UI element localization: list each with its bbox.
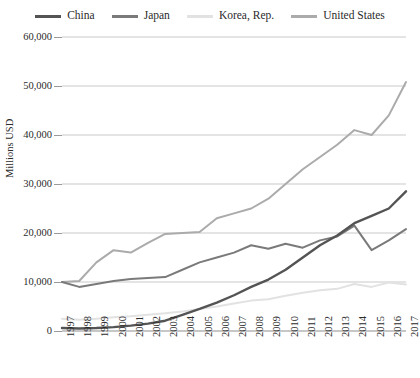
legend-label-china: China	[67, 10, 94, 22]
legend-item-china: China	[35, 10, 94, 22]
x-tick-label: 2017	[410, 316, 420, 337]
x-tick-label: 2010	[290, 316, 301, 337]
x-tick-label: 2009	[272, 316, 283, 337]
line-chart: China Japan Korea, Rep. United States Mi…	[0, 0, 420, 378]
x-tick-label: 2013	[341, 316, 352, 337]
legend-item-united-states: United States	[291, 10, 385, 22]
legend-item-japan: Japan	[112, 10, 170, 22]
x-tick-label: 2007	[238, 316, 249, 337]
x-tick-label: 2001	[135, 316, 146, 337]
legend-label-japan: Japan	[144, 10, 170, 22]
x-tick-label: 2015	[376, 316, 387, 337]
legend-swatch-japan	[112, 15, 138, 18]
x-tick-label: 2008	[255, 316, 266, 337]
x-tick-label: 2000	[118, 316, 129, 337]
x-tick-label: 2002	[152, 316, 163, 337]
legend-item-korea-rep: Korea, Rep.	[187, 10, 274, 22]
x-tick-label: 2011	[307, 316, 318, 337]
legend-swatch-korea-rep	[187, 15, 213, 18]
x-tick-label: 2016	[393, 316, 404, 337]
x-tick-label: 2004	[186, 316, 197, 337]
legend-label-korea-rep: Korea, Rep.	[219, 10, 274, 22]
plot-area: Millions USD 010,00020,00030,00040,00050…	[0, 28, 420, 378]
x-tick-label: 2005	[204, 316, 215, 337]
x-tick-label: 2014	[358, 316, 369, 337]
x-tick-label: 1997	[66, 316, 77, 337]
x-tick-label: 2012	[324, 316, 335, 337]
legend-swatch-united-states	[291, 15, 317, 18]
x-tick-label: 1999	[100, 316, 111, 337]
x-tick-label: 2006	[221, 316, 232, 337]
chart-legend: China Japan Korea, Rep. United States	[0, 6, 420, 26]
legend-label-united-states: United States	[323, 10, 385, 22]
legend-swatch-china	[35, 15, 61, 18]
x-tick-label: 2003	[169, 316, 180, 337]
x-axis-tick-labels: 1997199819992000200120022003200420052006…	[0, 28, 420, 378]
x-tick-label: 1998	[83, 316, 94, 337]
